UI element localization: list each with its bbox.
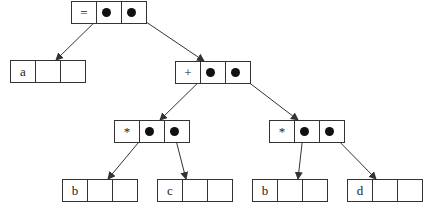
left-pointer-cell bbox=[96, 1, 122, 24]
pointer-dot-icon bbox=[170, 127, 179, 136]
right-pointer-cell bbox=[164, 120, 190, 143]
node-label-cell: c bbox=[157, 179, 183, 202]
tree-node-b1: b bbox=[62, 179, 138, 202]
right-pointer-cell bbox=[302, 179, 328, 202]
right-pointer-cell bbox=[397, 179, 423, 202]
node-label-cell: a bbox=[10, 60, 36, 83]
pointer-dot-icon bbox=[127, 8, 136, 17]
tree-node-mul1: * bbox=[114, 120, 190, 143]
pointer-dot-icon bbox=[325, 127, 334, 136]
pointer-dot-icon bbox=[102, 8, 111, 17]
right-pointer-cell bbox=[319, 120, 345, 143]
tree-node-mul2: * bbox=[269, 120, 345, 143]
node-label-cell: * bbox=[269, 120, 295, 143]
tree-node-c: c bbox=[157, 179, 233, 202]
tree-node-eq: = bbox=[71, 1, 147, 24]
left-pointer-cell bbox=[182, 179, 208, 202]
right-pointer-cell bbox=[121, 1, 147, 24]
right-pointer-cell bbox=[60, 60, 86, 83]
node-label-cell: * bbox=[114, 120, 140, 143]
left-pointer-cell bbox=[294, 120, 320, 143]
pointer-dot-icon bbox=[231, 68, 240, 77]
node-label-cell: b bbox=[62, 179, 88, 202]
pointer-dot-icon bbox=[300, 127, 309, 136]
tree-node-b2: b bbox=[252, 179, 328, 202]
right-pointer-cell bbox=[207, 179, 233, 202]
pointer-dot-icon bbox=[206, 68, 215, 77]
expression-tree-diagram: =a+**bcbd bbox=[0, 0, 428, 215]
node-label-cell: + bbox=[175, 61, 201, 84]
node-label-cell: = bbox=[71, 1, 97, 24]
right-pointer-cell bbox=[225, 61, 251, 84]
left-pointer-cell bbox=[35, 60, 61, 83]
left-pointer-cell bbox=[139, 120, 165, 143]
right-pointer-cell bbox=[112, 179, 138, 202]
tree-node-plus: + bbox=[175, 61, 251, 84]
tree-node-a: a bbox=[10, 60, 86, 83]
pointer-dot-icon bbox=[145, 127, 154, 136]
left-pointer-cell bbox=[87, 179, 113, 202]
left-pointer-cell bbox=[277, 179, 303, 202]
node-label-cell: b bbox=[252, 179, 278, 202]
left-pointer-cell bbox=[372, 179, 398, 202]
node-label-cell: d bbox=[347, 179, 373, 202]
tree-node-d: d bbox=[347, 179, 423, 202]
left-pointer-cell bbox=[200, 61, 226, 84]
